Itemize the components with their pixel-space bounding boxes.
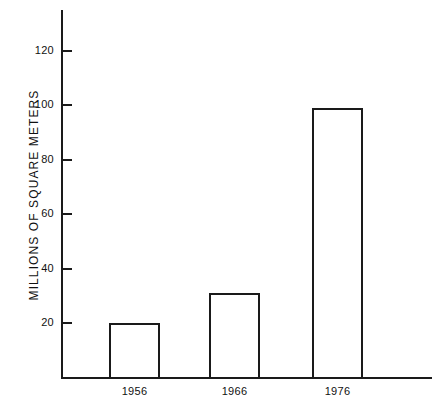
y-tick-label: 120 bbox=[18, 45, 54, 56]
x-axis-label-1976: 1976 bbox=[298, 385, 378, 397]
y-tick-label-text: 120 bbox=[24, 45, 54, 56]
bar-1966 bbox=[209, 293, 260, 379]
y-tick-label: 20 bbox=[18, 317, 54, 328]
y-tick-label-text: 20 bbox=[24, 317, 54, 328]
y-tick-label-text: 100 bbox=[24, 99, 54, 110]
x-axis-label-1966: 1966 bbox=[195, 385, 275, 397]
y-tick-label-text: 60 bbox=[24, 208, 54, 219]
y-axis-title: MILLIONS OF SQUARE METERS bbox=[27, 75, 41, 315]
bar-chart: MILLIONS OF SQUARE METERS 20406080100120… bbox=[0, 0, 438, 409]
y-tick-mark bbox=[61, 213, 72, 215]
y-tick-mark bbox=[61, 50, 72, 52]
bar-1976 bbox=[312, 108, 363, 379]
y-tick-label-text: 40 bbox=[24, 263, 54, 274]
y-tick-label: 40 bbox=[18, 263, 54, 274]
x-axis-label-1956: 1956 bbox=[95, 385, 175, 397]
y-tick-mark bbox=[61, 104, 72, 106]
y-tick-label: 60 bbox=[18, 208, 54, 219]
bar-1956 bbox=[109, 323, 160, 379]
y-tick-label: 80 bbox=[18, 154, 54, 165]
y-tick-mark bbox=[61, 322, 72, 324]
y-tick-label: 100 bbox=[18, 99, 54, 110]
y-tick-mark bbox=[61, 159, 72, 161]
y-tick-mark bbox=[61, 268, 72, 270]
y-tick-label-text: 80 bbox=[24, 154, 54, 165]
